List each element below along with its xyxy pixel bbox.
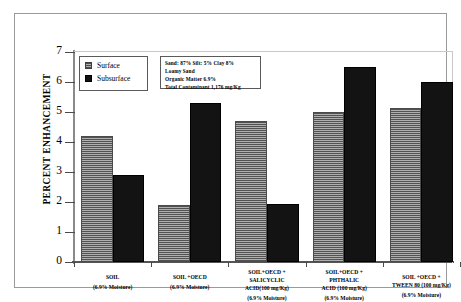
y-tick-label-1: 1	[65, 232, 66, 233]
y-tick-label-7: 7	[65, 52, 66, 53]
group-label-line: SOIL+OECD +	[228, 268, 305, 276]
legend-swatch-surface-icon	[85, 62, 92, 69]
group-label-line: SOIL +OECD +	[383, 273, 460, 281]
legend-label-surface: Surface	[97, 61, 120, 70]
y-axis-title: PERCENT ENHANCEMENT	[42, 44, 52, 234]
chart-legend: Surface Subsurface	[79, 56, 148, 91]
group-label-moisture: (6.9% Moisture)	[306, 294, 383, 302]
group-label-line: SOIL +OECD	[151, 273, 228, 281]
group-label-line: SALICYCLIC	[228, 276, 305, 284]
bar-surface-4	[313, 112, 345, 262]
x-axis-group-label-1: SOIL(6.9% Moisture)	[74, 273, 151, 291]
x-tick-2	[151, 262, 152, 267]
info-line-organic: Organic Matter 6.9%	[165, 75, 260, 83]
y-tick-text: 1	[56, 224, 62, 236]
group-label-line: SOIL	[74, 273, 151, 281]
x-tick-3	[228, 262, 229, 267]
x-axis-group-label-3: SOIL+OECD +SALICYCLICACID(100 mg/Kg)(6.9…	[228, 268, 305, 302]
y-tick-label-4: 4	[65, 142, 66, 143]
y-tick-label-6: 6	[65, 82, 66, 83]
y-tick-text: 0	[56, 254, 62, 266]
x-tick-5	[383, 262, 384, 267]
y-tick-label-3: 3	[65, 172, 66, 173]
info-line-texture: Sand: 87% Silt: 5% Clay 8%	[165, 59, 260, 67]
group-label-line: PHTHALIC	[306, 276, 383, 284]
y-tick-text: 3	[56, 164, 62, 176]
y-tick-text: 2	[56, 194, 62, 206]
legend-item-subsurface: Subsurface	[85, 74, 147, 83]
bar-subsurface-3	[267, 204, 299, 263]
bar-subsurface-2	[190, 103, 222, 262]
group-label-line: ACID (100 mg/Kg)	[306, 284, 383, 292]
info-line-contaminant: Total Contaminant 1,176 mg/Kg	[165, 83, 260, 91]
group-label-moisture: (6.9% Moisture)	[151, 283, 228, 291]
bar-surface-2	[158, 205, 190, 262]
group-label-line: SOIL+OECD +	[306, 268, 383, 276]
x-axis-group-label-2: SOIL +OECD(6.9% Moisture)	[151, 273, 228, 291]
group-label-line: TWEEN 80 (100 mg/Kg)	[383, 281, 460, 289]
info-line-soiltype: Loamy Sand	[165, 67, 260, 75]
bar-surface-5	[390, 108, 422, 263]
y-tick-text: 5	[56, 104, 62, 116]
bar-surface-1	[81, 136, 113, 262]
figure-frame: PERCENT ENHANCEMENT 01234567 SOIL(6.9% M…	[14, 13, 447, 288]
y-tick-text: 6	[56, 74, 62, 86]
y-tick-text: 7	[56, 44, 62, 56]
y-tick-label-2: 2	[65, 202, 66, 203]
x-axis-group-label-5: SOIL +OECD +TWEEN 80 (100 mg/Kg)(6.9% Mo…	[383, 273, 460, 299]
group-label-moisture: (6.9% Moisture)	[228, 294, 305, 302]
group-label-line: ACID(100 mg/Kg)	[228, 284, 305, 292]
y-tick-text: 4	[56, 134, 62, 146]
bar-surface-3	[235, 121, 267, 262]
bar-subsurface-1	[113, 175, 145, 262]
bar-subsurface-4	[344, 67, 376, 262]
group-label-moisture: (6.9% Moisture)	[74, 283, 151, 291]
soil-properties-box: Sand: 87% Silt: 5% Clay 8% Loamy Sand Or…	[160, 56, 261, 89]
bar-subsurface-5	[421, 82, 453, 262]
legend-item-surface: Surface	[85, 61, 147, 70]
x-tick-1	[74, 262, 75, 267]
legend-swatch-subsurface-icon	[85, 75, 92, 82]
y-tick-label-0: 0	[65, 262, 66, 263]
x-tick-4	[306, 262, 307, 267]
x-axis-group-label-4: SOIL+OECD +PHTHALICACID (100 mg/Kg)(6.9%…	[306, 268, 383, 302]
y-tick-label-5: 5	[65, 112, 66, 113]
legend-label-subsurface: Subsurface	[97, 74, 130, 83]
group-label-moisture: (6.9% Moisture)	[383, 291, 460, 299]
